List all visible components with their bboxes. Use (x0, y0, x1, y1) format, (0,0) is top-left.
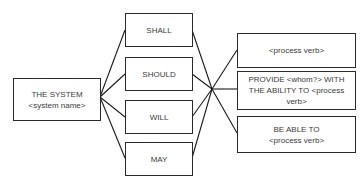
predicate-label: PROVIDE <whom?> WITH THE ABILITY TO <pro… (242, 74, 351, 107)
predicate-box-be-able-to: BE ABLE TO <process verb> (237, 116, 356, 153)
connector-subject-shall (100, 30, 125, 97)
modal-label: MAY (151, 154, 168, 165)
modal-box-shall: SHALL (125, 13, 193, 47)
subject-box: THE SYSTEM <system name> (13, 78, 101, 121)
predicate-box-process-verb: <process verb> (237, 33, 356, 68)
subject-title: THE SYSTEM (31, 89, 82, 100)
predicate-label-line2: <process verb> (269, 135, 324, 146)
connector-subject-may (100, 97, 125, 158)
modal-label: SHALL (146, 25, 171, 36)
connector-shall-hub (192, 30, 212, 89)
connector-hub-process-verb (212, 50, 237, 89)
modal-label: WILL (150, 112, 169, 123)
predicate-label-line1: BE ABLE TO (274, 124, 320, 135)
subject-placeholder: <system name> (29, 100, 86, 111)
connector-hub-be-able (212, 89, 237, 133)
modal-label: SHOULD (142, 69, 175, 80)
connector-will-hub (192, 89, 212, 117)
modal-box-should: SHOULD (125, 57, 193, 91)
connector-may-hub (192, 89, 212, 158)
predicate-box-provide-ability: PROVIDE <whom?> WITH THE ABILITY TO <pro… (237, 71, 356, 110)
modal-box-may: MAY (125, 142, 193, 176)
predicate-label: <process verb> (269, 45, 324, 56)
modal-box-will: WILL (125, 100, 193, 134)
